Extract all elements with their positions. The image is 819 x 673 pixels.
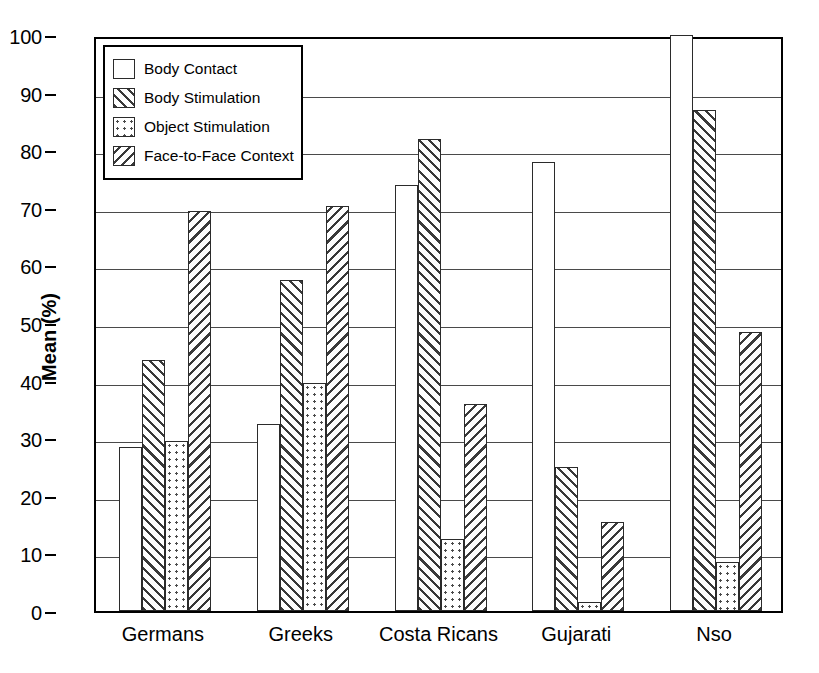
y-tick-mark (45, 497, 56, 499)
y-tick-mark (45, 554, 56, 556)
bar-chart-figure: 0102030405060708090100 Mean (%) GermansG… (0, 0, 819, 673)
legend-swatch-none (113, 59, 135, 79)
bar (142, 360, 165, 611)
legend-item: Body Contact (113, 54, 293, 83)
y-tick-mark (45, 209, 56, 211)
x-tick-label: Gujarati (541, 623, 611, 646)
bar (739, 332, 762, 611)
bar (670, 35, 693, 611)
bar (165, 441, 188, 611)
y-tick-mark (45, 439, 56, 441)
legend-swatch-dots (113, 117, 135, 137)
x-axis: GermansGreeksCosta RicansGujaratiNso (94, 615, 783, 665)
legend-item-label: Body Stimulation (144, 90, 260, 106)
y-tick-label: 10 (20, 544, 42, 567)
legend-swatch-fdiag (113, 88, 135, 108)
y-tick-mark (45, 94, 56, 96)
bar (326, 206, 349, 611)
bar (464, 404, 487, 611)
y-tick-label: 60 (20, 256, 42, 279)
bar (119, 447, 142, 611)
y-tick-label: 80 (20, 141, 42, 164)
x-tick-label: Germans (122, 623, 204, 646)
legend-item: Body Stimulation (113, 83, 293, 112)
bar (555, 467, 578, 611)
chart-legend: Body ContactBody StimulationObject Stimu… (103, 45, 303, 180)
y-tick-label: 100 (9, 26, 42, 49)
x-tick-label: Greeks (268, 623, 332, 646)
y-tick-label: 70 (20, 198, 42, 221)
bar (441, 539, 464, 611)
legend-item-label: Object Stimulation (144, 119, 270, 135)
x-tick-label: Nso (696, 623, 732, 646)
bar (578, 602, 601, 611)
legend-item: Face-to-Face Context (113, 141, 293, 170)
bar-group (532, 39, 624, 611)
y-tick-mark (45, 382, 56, 384)
y-tick-label: 30 (20, 429, 42, 452)
y-axis-title: Mean (%) (38, 293, 61, 381)
bar (188, 211, 211, 611)
legend-swatch-bdiag (113, 146, 135, 166)
bar (257, 424, 280, 611)
y-tick-mark (45, 151, 56, 153)
bar (693, 110, 716, 611)
legend-item-label: Body Contact (144, 61, 237, 77)
y-tick-mark (45, 266, 56, 268)
bar (532, 162, 555, 611)
bar (716, 562, 739, 611)
legend-item: Object Stimulation (113, 112, 293, 141)
bar (303, 383, 326, 611)
y-tick-mark (45, 36, 56, 38)
bar-group (395, 39, 487, 611)
bar-group (670, 39, 762, 611)
bar (418, 139, 441, 611)
y-tick-mark (45, 612, 56, 614)
y-tick-label: 90 (20, 83, 42, 106)
legend-item-label: Face-to-Face Context (144, 148, 294, 164)
y-tick-label: 20 (20, 486, 42, 509)
bar (601, 522, 624, 611)
bar (280, 280, 303, 611)
bar (395, 185, 418, 611)
x-tick-label: Costa Ricans (379, 623, 498, 646)
y-tick-label: 0 (31, 602, 42, 625)
